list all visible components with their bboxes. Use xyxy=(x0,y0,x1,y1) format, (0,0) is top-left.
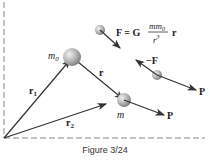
svg-text:r: r xyxy=(172,27,177,38)
svg-text:F = G: F = G xyxy=(116,27,140,38)
m0-label: m0 xyxy=(48,50,59,63)
P-upper-label: P xyxy=(199,86,205,97)
m-label: m xyxy=(117,109,124,120)
svg-text:mm0: mm0 xyxy=(149,21,165,32)
r1-label: r1 xyxy=(29,85,37,98)
r-vector xyxy=(72,57,123,99)
diagram-canvas: m0 m r r1 r2 P P −F F = G mm0 r3 r xyxy=(0,0,210,161)
r1-vector xyxy=(4,60,70,138)
r2-vector xyxy=(4,104,106,138)
r-label: r xyxy=(99,67,104,78)
svg-text:r3: r3 xyxy=(153,34,160,45)
mass-m0-sphere xyxy=(63,48,81,66)
r2-label: r2 xyxy=(66,117,74,130)
neg-F-label: −F xyxy=(146,55,158,66)
P-lower-label: P xyxy=(167,110,173,121)
P-upper-arrow xyxy=(157,75,196,90)
P-lower-arrow xyxy=(124,100,164,115)
figure-caption: Figure 3/24 xyxy=(0,145,210,155)
gravitation-equation: F = G mm0 r3 r xyxy=(116,21,177,45)
